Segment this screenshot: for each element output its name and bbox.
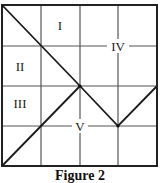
figure-caption: Figure 2 (55, 168, 105, 183)
region-label-iii: III (14, 96, 27, 111)
region-label-iv: IV (111, 39, 125, 54)
v-vertex-dot (116, 124, 119, 127)
figure-diagram: I II III IV V Figure 2 (0, 0, 160, 183)
region-label-ii: II (16, 59, 25, 74)
region-label-i: I (58, 18, 62, 33)
region-label-v: V (75, 119, 85, 134)
center-junction-dot (78, 84, 81, 87)
